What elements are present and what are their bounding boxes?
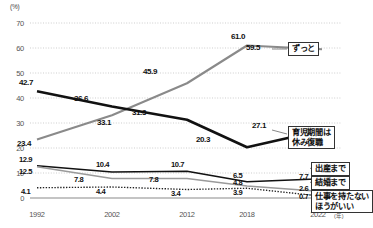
label-ikuji-2022: 27.1 xyxy=(252,122,266,130)
label-ikuji-2002: 36.6 xyxy=(74,95,88,103)
y-tick-50: 50 xyxy=(8,69,24,78)
x-axis-unit: (年) xyxy=(334,212,344,220)
legend-ikuji-label-1: 育児期間は xyxy=(292,128,331,138)
y-tick-70: 70 xyxy=(8,19,24,28)
legend-shussan[interactable]: 出産まで xyxy=(311,162,350,176)
label-zutto-1992: 23.4 xyxy=(17,140,31,148)
label-motanai-2022: 0.7 xyxy=(299,193,308,201)
label-kekkon-2012: 7.8 xyxy=(149,176,158,184)
legend-shussan-label: 出産まで xyxy=(315,164,346,173)
label-zutto-2018: 61.0 xyxy=(231,33,245,41)
x-tick-2002: 2002 xyxy=(94,210,130,219)
legend-ikuji-label-2: 休み復職 xyxy=(292,138,331,148)
label-shussan-1992: 12.9 xyxy=(19,156,32,164)
legend-zutto-label: ずっと xyxy=(292,44,315,53)
label-motanai-1992: 4.1 xyxy=(21,188,30,196)
label-ikuji-2018: 20.3 xyxy=(196,136,210,144)
y-axis-unit: (%) xyxy=(10,3,20,10)
leader-ikuji xyxy=(272,130,287,134)
label-zutto-2022: 59.5 xyxy=(246,44,260,52)
legend-motanai[interactable]: 仕事を持たない ほうがいい xyxy=(311,190,373,213)
x-tick-2012: 2012 xyxy=(169,210,205,219)
label-zutto-2012: 45.9 xyxy=(143,68,157,76)
legend-motanai-label-1: 仕事を持たない xyxy=(315,192,369,202)
y-tick-60: 60 xyxy=(8,44,24,53)
label-shussan-2002: 10.4 xyxy=(96,161,109,169)
label-ikuji-2012: 31.3 xyxy=(132,109,146,117)
y-tick-40: 40 xyxy=(8,94,24,103)
legend-kekkon-label: 結婚まで xyxy=(315,178,346,187)
label-motanai-2018: 3.9 xyxy=(233,189,242,197)
legend-ikuji[interactable]: 育児期間は 休み復職 xyxy=(288,126,335,149)
label-ikuji-1992: 42.7 xyxy=(19,79,33,87)
label-motanai-2002: 4.4 xyxy=(96,188,105,196)
legend-kekkon[interactable]: 結婚まで xyxy=(311,176,350,190)
label-kekkon-2002: 7.8 xyxy=(74,176,83,184)
label-kekkon-1992: 12.5 xyxy=(19,168,32,176)
y-tick-30: 30 xyxy=(8,119,24,128)
legend-motanai-label-2: ほうがいい xyxy=(315,202,369,212)
label-kekkon-2018: 4.8 xyxy=(233,179,242,187)
legend-zutto[interactable]: ずっと xyxy=(288,42,319,56)
x-tick-2018: 2018 xyxy=(229,210,265,219)
label-motanai-2012: 3.4 xyxy=(171,190,180,198)
x-tick-1992: 1992 xyxy=(19,210,55,219)
label-shussan-2012: 10.7 xyxy=(171,161,184,169)
series-line-zutto xyxy=(37,46,322,140)
label-zutto-2002: 33.1 xyxy=(97,119,111,127)
label-shussan-2022: 7.7 xyxy=(299,173,308,181)
